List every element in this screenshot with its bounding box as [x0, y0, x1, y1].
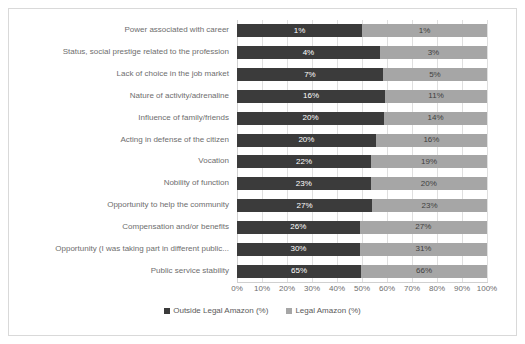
x-axis-tick-label: 70%	[404, 285, 420, 293]
bar-row[interactable]: 20%16%	[237, 134, 487, 147]
bar-segment-outside-legal-amazon[interactable]: 27%	[237, 199, 372, 212]
x-axis-tick-label: 90%	[454, 285, 470, 293]
legend-item[interactable]: Legal Amazon (%)	[286, 307, 360, 315]
bar-segment-legal-amazon[interactable]: 14%	[384, 112, 487, 125]
bar-row[interactable]: 7%5%	[237, 68, 487, 81]
category-axis-label: Opportunity to help the community	[107, 201, 229, 209]
bar-data-label: 20%	[421, 180, 437, 188]
bar-data-label: 11%	[428, 92, 443, 100]
chart-container: Power associated with careerStatus, soci…	[0, 0, 525, 344]
bar-row[interactable]: 27%23%	[237, 199, 487, 212]
bar-data-label: 7%	[304, 71, 316, 79]
bar-segment-outside-legal-amazon[interactable]: 1%	[237, 24, 362, 37]
bar-data-label: 1%	[294, 27, 306, 35]
category-axis-label: Power associated with career	[125, 26, 230, 34]
chart-legend: Outside Legal Amazon (%)Legal Amazon (%)	[8, 307, 517, 315]
category-axis-label: Vocation	[198, 157, 229, 165]
x-axis-tick-label: 80%	[429, 285, 445, 293]
bar-row[interactable]: 22%19%	[237, 155, 487, 168]
bar-data-label: 4%	[303, 49, 315, 57]
category-axis-label: Nobility of function	[164, 179, 229, 187]
category-axis-label: Opportunity (I was taking part in differ…	[55, 245, 229, 253]
category-axis-label: Compensation and/or benefits	[122, 223, 229, 231]
bar-segment-legal-amazon[interactable]: 20%	[371, 177, 487, 190]
category-axis-label: Public service stability	[151, 267, 229, 275]
legend-label: Outside Legal Amazon (%)	[173, 307, 268, 315]
bar-rows: 1%1%4%3%7%5%16%11%20%14%20%16%22%19%23%2…	[237, 20, 487, 282]
bar-data-label: 26%	[290, 223, 306, 231]
bar-data-label: 5%	[429, 71, 441, 79]
bar-segment-legal-amazon[interactable]: 66%	[361, 265, 487, 278]
bar-data-label: 16%	[303, 92, 319, 100]
bar-segment-legal-amazon[interactable]: 1%	[362, 24, 487, 37]
legend-label: Legal Amazon (%)	[295, 307, 360, 315]
bar-row[interactable]: 16%11%	[237, 90, 487, 103]
bar-segment-outside-legal-amazon[interactable]: 20%	[237, 112, 384, 125]
bar-row[interactable]: 30%31%	[237, 243, 487, 256]
bar-data-label: 30%	[290, 245, 306, 253]
bar-segment-legal-amazon[interactable]: 31%	[360, 243, 487, 256]
bar-segment-legal-amazon[interactable]: 5%	[383, 68, 487, 81]
bar-data-label: 66%	[416, 267, 432, 275]
bar-data-label: 31%	[415, 245, 431, 253]
bar-segment-outside-legal-amazon[interactable]: 26%	[237, 221, 360, 234]
bar-segment-outside-legal-amazon[interactable]: 20%	[237, 134, 376, 147]
bar-segment-outside-legal-amazon[interactable]: 65%	[237, 265, 361, 278]
category-axis-label: Nature of activity/adrenaline	[130, 92, 229, 100]
x-axis-tick-labels: 0%10%20%30%40%50%60%70%80%90%100%	[237, 285, 487, 299]
bar-data-label: 23%	[296, 180, 312, 188]
bar-data-label: 14%	[428, 114, 444, 122]
bar-segment-legal-amazon[interactable]: 11%	[385, 90, 487, 103]
bar-segment-outside-legal-amazon[interactable]: 23%	[237, 177, 371, 190]
x-axis-tick-label: 10%	[254, 285, 270, 293]
bar-segment-legal-amazon[interactable]: 23%	[372, 199, 487, 212]
bar-row[interactable]: 23%20%	[237, 177, 487, 190]
bar-segment-outside-legal-amazon[interactable]: 22%	[237, 155, 371, 168]
x-axis-tick-label: 0%	[231, 285, 243, 293]
x-axis-tick-label: 40%	[329, 285, 345, 293]
bar-data-label: 22%	[296, 158, 312, 166]
category-axis: Power associated with careerStatus, soci…	[8, 20, 233, 282]
bar-data-label: 20%	[298, 136, 314, 144]
legend-swatch-icon	[164, 308, 170, 314]
x-axis-line	[237, 282, 488, 283]
bar-data-label: 16%	[423, 136, 439, 144]
legend-item[interactable]: Outside Legal Amazon (%)	[164, 307, 268, 315]
bar-row[interactable]: 1%1%	[237, 24, 487, 37]
bar-data-label: 20%	[303, 114, 319, 122]
bar-segment-legal-amazon[interactable]: 3%	[380, 46, 487, 59]
bar-segment-legal-amazon[interactable]: 27%	[360, 221, 487, 234]
bar-segment-outside-legal-amazon[interactable]: 16%	[237, 90, 385, 103]
bar-row[interactable]: 26%27%	[237, 221, 487, 234]
bar-data-label: 19%	[421, 158, 437, 166]
bar-segment-outside-legal-amazon[interactable]: 4%	[237, 46, 380, 59]
x-axis-tick-label: 50%	[354, 285, 370, 293]
plot-area: 1%1%4%3%7%5%16%11%20%14%20%16%22%19%23%2…	[237, 20, 487, 282]
category-axis-label: Status, social prestige related to the p…	[63, 48, 229, 56]
bar-segment-outside-legal-amazon[interactable]: 30%	[237, 243, 360, 256]
category-axis-label: Influence of family/friends	[138, 114, 229, 122]
x-axis-tick-label: 20%	[279, 285, 295, 293]
bar-data-label: 27%	[296, 202, 312, 210]
bar-data-label: 1%	[419, 27, 431, 35]
bar-row[interactable]: 65%66%	[237, 265, 487, 278]
bar-segment-legal-amazon[interactable]: 19%	[371, 155, 487, 168]
x-axis-tick-label: 60%	[379, 285, 395, 293]
bar-segment-outside-legal-amazon[interactable]: 7%	[237, 68, 383, 81]
x-axis-tick-label: 30%	[304, 285, 320, 293]
legend-swatch-icon	[286, 308, 292, 314]
bar-data-label: 3%	[428, 49, 440, 57]
x-axis-tick-label: 100%	[477, 285, 497, 293]
bar-row[interactable]: 20%14%	[237, 112, 487, 125]
category-axis-label: Acting in defense of the citizen	[120, 136, 229, 144]
bar-segment-legal-amazon[interactable]: 16%	[376, 134, 487, 147]
bar-data-label: 27%	[415, 223, 431, 231]
bar-data-label: 23%	[421, 202, 437, 210]
category-axis-label: Lack of choice in the job market	[116, 70, 229, 78]
gridline	[487, 20, 488, 282]
bar-row[interactable]: 4%3%	[237, 46, 487, 59]
bar-data-label: 65%	[291, 267, 307, 275]
